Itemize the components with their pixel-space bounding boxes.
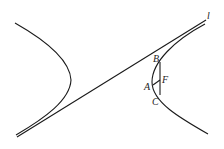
label-f: F [161,74,169,85]
label-a: A [143,81,151,92]
label-l: l [207,10,210,21]
label-c: C [152,96,159,107]
segment-af [153,80,160,85]
left-hyperbola-branch [15,23,71,135]
line-l [17,20,206,137]
label-b: B [153,53,159,64]
hyperbola-diagram: l B F A C [0,0,224,149]
